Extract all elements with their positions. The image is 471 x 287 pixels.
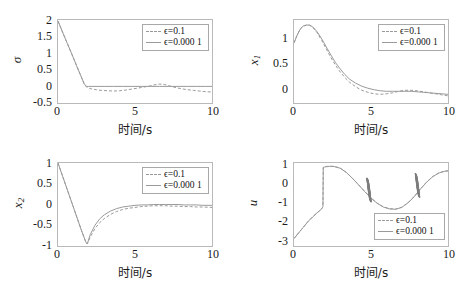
subplot-x1: x1 1 0.5 0 ϵ=0.1 ϵ=0.000 1 0 5 10 时间/s — [236, 0, 471, 144]
x-tick-label: 5 — [361, 247, 381, 262]
y-tick-label: 0.5 — [250, 56, 288, 71]
legend-swatch-solid — [146, 185, 161, 187]
y-tick-label: -2 — [250, 214, 288, 229]
x-tick-label: 10 — [439, 104, 459, 119]
legend-swatch-solid — [146, 42, 161, 44]
x-axis-label: 时间/s — [321, 263, 421, 280]
legend-x1: ϵ=0.1 ϵ=0.000 1 — [378, 24, 445, 51]
legend-label: ϵ=0.000 1 — [400, 37, 438, 48]
y-tick-label: 0 — [14, 79, 52, 94]
y-tick-label: -1 — [250, 195, 288, 210]
legend-swatch-solid — [382, 42, 397, 44]
y-tick-label: 0.5 — [14, 176, 52, 191]
figure-canvas: σ 2 1.5 1 0.5 0 -0.5 ϵ=0.1 ϵ=0.000 1 0 5 — [0, 0, 471, 287]
y-tick-label: 0.5 — [14, 62, 52, 77]
legend-entry: ϵ=0.000 1 — [146, 37, 205, 48]
legend-label: ϵ=0.1 — [396, 215, 417, 226]
chatter-line — [419, 194, 420, 198]
legend-x2: ϵ=0.1 ϵ=0.000 1 — [142, 167, 209, 194]
subplot-sigma: σ 2 1.5 1 0.5 0 -0.5 ϵ=0.1 ϵ=0.000 1 0 5 — [0, 0, 236, 144]
legend-u: ϵ=0.1 ϵ=0.000 1 — [374, 213, 445, 240]
legend-sigma: ϵ=0.1 ϵ=0.000 1 — [142, 24, 209, 51]
x-tick-label: 0 — [47, 247, 67, 262]
x-tick-label: 10 — [203, 247, 223, 262]
legend-swatch-dashed — [378, 220, 393, 222]
legend-swatch-dashed — [146, 174, 161, 176]
x-axis-label: 时间/s — [85, 263, 185, 280]
y-tick-label: 1 — [250, 31, 288, 46]
legend-entry: ϵ=0.1 — [146, 26, 205, 37]
legend-label: ϵ=0.1 — [164, 26, 185, 37]
legend-entry: ϵ=0.000 1 — [382, 37, 441, 48]
y-tick-label: -0.5 — [14, 217, 52, 232]
subplot-x2: x2 1 0.5 0 -0.5 -1 ϵ=0.1 ϵ=0.000 1 0 5 1… — [0, 143, 236, 287]
legend-entry: ϵ=0.1 — [378, 215, 441, 226]
legend-entry: ϵ=0.1 — [382, 26, 441, 37]
y-tick-label: 2 — [14, 13, 52, 28]
x-tick-label: 5 — [361, 104, 381, 119]
y-tick-label: 1.5 — [14, 29, 52, 44]
x-tick-label: 10 — [439, 247, 459, 262]
x-tick-label: 10 — [203, 104, 223, 119]
legend-entry: ϵ=0.000 1 — [378, 226, 441, 237]
legend-entry: ϵ=0.1 — [146, 169, 205, 180]
legend-entry: ϵ=0.000 1 — [146, 180, 205, 191]
legend-label: ϵ=0.1 — [164, 169, 185, 180]
x-axis-label: 时间/s — [85, 120, 185, 137]
y-tick-label: 0 — [250, 82, 288, 97]
y-tick-label: 0 — [14, 197, 52, 212]
y-tick-label: 1 — [14, 46, 52, 61]
x-tick-label: 0 — [283, 247, 303, 262]
legend-swatch-dashed — [146, 31, 161, 33]
x-tick-label: 0 — [47, 104, 67, 119]
legend-label: ϵ=0.000 1 — [164, 37, 202, 48]
legend-swatch-solid — [378, 231, 393, 233]
x-tick-label: 0 — [283, 104, 303, 119]
legend-label: ϵ=0.000 1 — [396, 226, 434, 237]
legend-swatch-dashed — [382, 31, 397, 33]
chatter-line — [371, 198, 372, 202]
x-tick-label: 5 — [125, 104, 145, 119]
legend-label: ϵ=0.000 1 — [164, 180, 202, 191]
y-tick-label: 1 — [14, 156, 52, 171]
subplot-u: u 1 0 -1 -2 -3 ϵ=0.1 ϵ=0.000 1 0 5 1 — [236, 143, 471, 287]
y-tick-label: 0 — [250, 176, 288, 191]
legend-label: ϵ=0.1 — [400, 26, 421, 37]
x-tick-label: 5 — [125, 247, 145, 262]
y-tick-label: 1 — [250, 157, 288, 172]
x-axis-label: 时间/s — [321, 120, 421, 137]
chatter-clusters — [367, 173, 420, 202]
